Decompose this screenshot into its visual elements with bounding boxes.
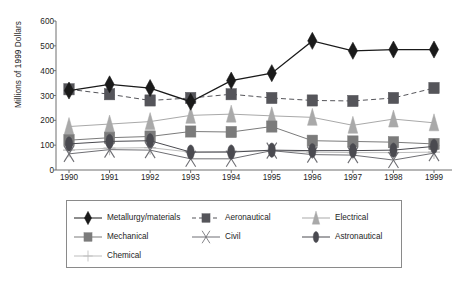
legend-label: Chemical xyxy=(107,251,141,260)
legend-label: Aeronautical xyxy=(225,213,271,222)
diamond-icon xyxy=(73,211,103,225)
line-chart-canvas xyxy=(0,0,465,195)
series-aeronautical xyxy=(64,82,439,106)
diamond-marker xyxy=(308,32,317,49)
square-icon xyxy=(191,211,221,225)
series-line xyxy=(69,41,434,102)
x-tick-label: 1992 xyxy=(141,173,159,182)
square-marker xyxy=(388,92,398,103)
legend-label: Astronautical xyxy=(335,232,382,241)
x-tick-label: 1991 xyxy=(100,173,118,182)
x-tick-label: 1993 xyxy=(182,173,200,182)
legend-item[interactable]: Aeronautical xyxy=(191,208,301,227)
plus-icon xyxy=(73,249,103,263)
chart-page: Millions of 1999 Dollars 600500400300200… xyxy=(0,0,465,281)
ellipse-marker xyxy=(430,139,437,153)
square-marker xyxy=(307,95,317,106)
x-tick-label: 1996 xyxy=(303,173,321,182)
series-electrical xyxy=(64,105,439,134)
x-icon xyxy=(191,230,221,244)
square-icon xyxy=(73,230,103,244)
ellipse-icon xyxy=(301,230,331,244)
ellipse-marker xyxy=(65,137,72,151)
square-marker xyxy=(267,121,277,132)
x-tick-label: 1994 xyxy=(222,173,240,182)
ellipse-marker xyxy=(147,133,154,147)
diamond-marker xyxy=(389,41,398,58)
triangle-icon xyxy=(301,211,331,225)
legend-label: Electrical xyxy=(335,213,368,222)
square-marker xyxy=(185,126,195,137)
x-tick-label: 1997 xyxy=(344,173,362,182)
square-marker xyxy=(226,89,236,100)
legend-item[interactable]: Metallurgy/materials xyxy=(73,208,191,227)
square-marker xyxy=(348,95,358,106)
square-marker xyxy=(84,232,92,241)
legend-item[interactable]: Astronautical xyxy=(301,227,409,246)
legend-label: Metallurgy/materials xyxy=(107,213,180,222)
diamond-marker xyxy=(146,80,155,97)
diamond-marker xyxy=(348,42,357,59)
diamond-marker xyxy=(84,211,91,224)
ellipse-marker xyxy=(106,134,113,148)
legend-label: Mechanical xyxy=(107,232,148,241)
series-civil xyxy=(64,142,439,168)
series-line xyxy=(69,88,434,101)
x-axis-ticks: 1990199119921993199419951996199719981999 xyxy=(0,173,465,187)
triangle-marker xyxy=(226,105,236,122)
triangle-marker xyxy=(389,110,399,127)
series-mechanical xyxy=(64,121,439,150)
square-marker xyxy=(429,82,439,93)
series-line xyxy=(69,114,434,126)
diamond-marker xyxy=(429,41,438,58)
legend-label: Civil xyxy=(225,232,240,241)
chart-legend: Metallurgy/materialsAeronauticalElectric… xyxy=(66,200,402,268)
ellipse-marker xyxy=(268,143,275,157)
square-marker xyxy=(267,92,277,103)
ellipse-marker xyxy=(313,231,319,242)
plot-area: Millions of 1999 Dollars 600500400300200… xyxy=(0,0,465,195)
x-tick-label: 1995 xyxy=(263,173,281,182)
ellipse-marker xyxy=(187,145,194,159)
x-tick-label: 1998 xyxy=(384,173,402,182)
x-tick-label: 1999 xyxy=(425,173,443,182)
square-marker xyxy=(226,126,236,137)
diamond-marker xyxy=(267,65,276,82)
legend-item[interactable]: Civil xyxy=(191,227,301,246)
legend-item[interactable]: Electrical xyxy=(301,208,409,227)
ellipse-marker xyxy=(349,143,356,157)
ellipse-marker xyxy=(309,143,316,157)
legend-item[interactable]: Chemical xyxy=(73,246,191,265)
x-tick-label: 1990 xyxy=(60,173,78,182)
ellipse-marker xyxy=(228,145,235,159)
legend-item[interactable]: Mechanical xyxy=(73,227,191,246)
square-marker xyxy=(202,213,210,222)
plus-marker xyxy=(83,250,92,261)
diamond-marker xyxy=(227,72,236,89)
ellipse-marker xyxy=(390,143,397,157)
